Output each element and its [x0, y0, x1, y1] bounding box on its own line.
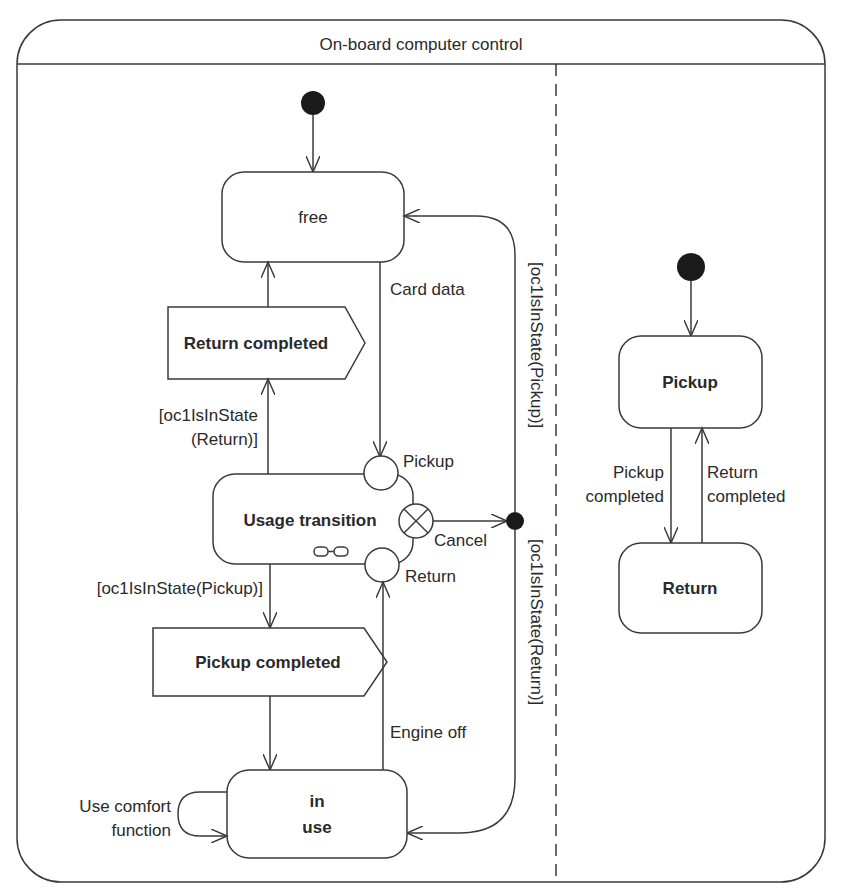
state-return-label: Return: [663, 579, 718, 598]
label-pickup-completed-1: Pickup: [613, 463, 664, 482]
signal-return-completed-label: Return completed: [184, 334, 329, 353]
label-engine-off: Engine off: [390, 723, 467, 742]
label-use-comfort-2: function: [111, 821, 171, 840]
label-entry-pickup: Pickup: [403, 452, 454, 471]
label-entry-return: Return: [405, 567, 456, 586]
state-machine-diagram: On-board computer control free Card data…: [0, 0, 844, 895]
label-pickup-completed-2: completed: [586, 487, 664, 506]
choice-node: [506, 512, 524, 530]
transition-self-loop-comfort: [178, 792, 227, 836]
signal-pickup-completed-label: Pickup completed: [195, 653, 340, 672]
label-return-completed-1: Return: [707, 463, 758, 482]
label-use-comfort-1: Use comfort: [79, 797, 171, 816]
label-exit-cancel: Cancel: [434, 531, 487, 550]
entry-point-pickup[interactable]: [364, 456, 398, 490]
state-free-label: free: [298, 208, 327, 227]
label-card-data: Card data: [390, 280, 465, 299]
label-guard-return-1: [oc1IsInState: [159, 406, 258, 425]
entry-point-return[interactable]: [365, 548, 399, 582]
state-in-use-label-2: use: [302, 818, 331, 837]
state-in-use-label-1: in: [309, 792, 324, 811]
state-in-use[interactable]: [227, 770, 407, 858]
initial-node-right: [677, 253, 705, 281]
outer-state-frame: [17, 20, 825, 882]
label-guard-vertical-pickup: [oc1IsInState(Pickup)]: [527, 262, 546, 428]
label-guard-pickup: [oc1IsInState(Pickup)]: [97, 579, 263, 598]
label-return-completed-2: completed: [707, 487, 785, 506]
state-pickup-label: Pickup: [662, 373, 718, 392]
label-guard-vertical-return: [oc1IsInState(Return)]: [527, 539, 546, 705]
diagram-title: On-board computer control: [319, 35, 522, 54]
state-usage-transition-label: Usage transition: [243, 511, 376, 530]
label-guard-return-2: (Return)]: [191, 430, 258, 449]
initial-node-left: [301, 91, 325, 115]
